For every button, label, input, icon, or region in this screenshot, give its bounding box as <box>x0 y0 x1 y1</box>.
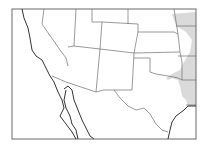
coastlines <box>22 9 196 139</box>
map-frame <box>12 9 196 139</box>
state-borders <box>42 9 196 132</box>
map <box>0 0 204 155</box>
